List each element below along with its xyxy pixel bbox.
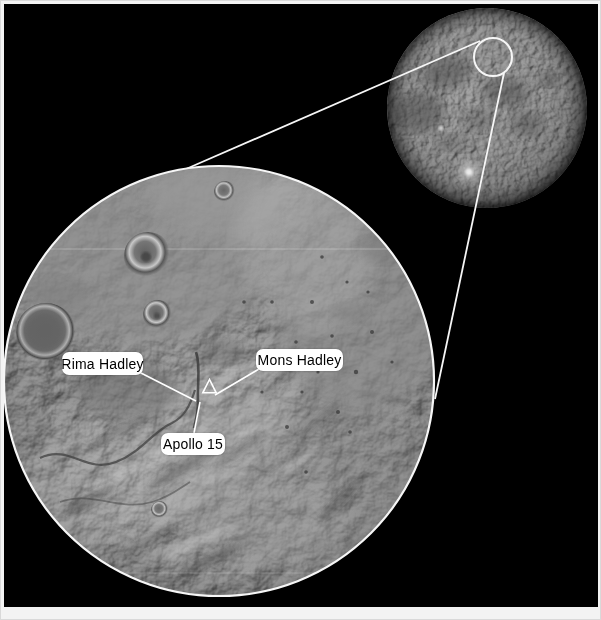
crater-small-south xyxy=(151,501,169,519)
crater-autolycus xyxy=(143,300,173,330)
crater-small-north xyxy=(214,181,236,203)
label-apollo-15-text: Apollo 15 xyxy=(163,437,223,451)
label-rima-hadley: Rima Hadley xyxy=(62,352,143,375)
moon-locator-graphic xyxy=(0,0,601,620)
label-apollo-15: Apollo 15 xyxy=(161,433,225,455)
label-mons-hadley-text: Mons Hadley xyxy=(258,353,342,367)
label-rima-hadley-text: Rima Hadley xyxy=(61,357,143,371)
label-mons-hadley: Mons Hadley xyxy=(256,349,343,371)
crater-aristillus xyxy=(124,232,172,280)
figure-page: Rima Hadley Mons Hadley Apollo 15 xyxy=(0,0,601,620)
